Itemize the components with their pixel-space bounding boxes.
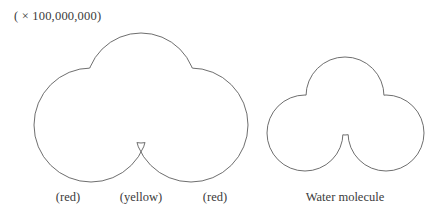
- right-water-molecule-model: [267, 57, 424, 171]
- caption-center-atom: (yellow): [120, 190, 162, 205]
- caption-water-molecule: Water molecule: [306, 190, 384, 205]
- caption-left-atom: (red): [56, 190, 80, 205]
- water-molecule-figure: ( × 100,000,000): [0, 0, 448, 218]
- molecule-diagram-svg: [0, 0, 448, 218]
- left-model-oxygen-fill: [86, 33, 196, 143]
- left-water-molecule-model: [34, 33, 248, 182]
- caption-right-atom: (red): [203, 190, 227, 205]
